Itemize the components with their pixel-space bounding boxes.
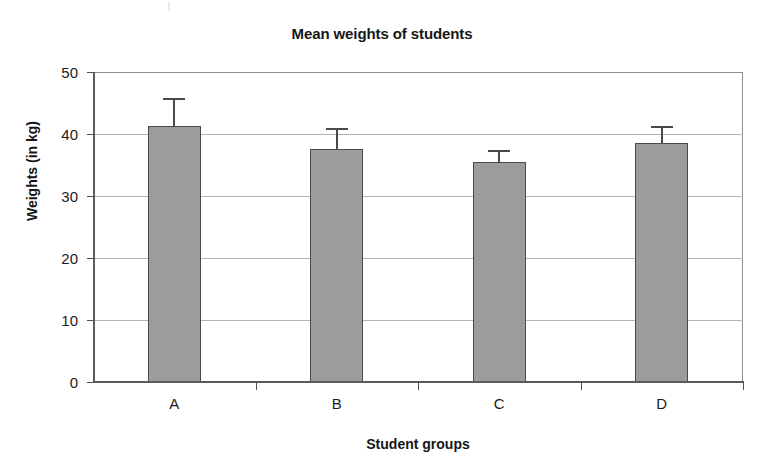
x-axis-tick: [418, 382, 419, 390]
x-axis-tick-label: A: [169, 395, 179, 412]
y-axis-tick-label: 10: [61, 312, 78, 329]
bar: [148, 126, 201, 382]
x-axis-tick-label: D: [656, 395, 667, 412]
x-axis-title: Student groups: [93, 436, 743, 452]
error-bar-stem: [661, 126, 663, 143]
x-axis-tick: [743, 382, 744, 390]
error-bar-stem: [336, 128, 338, 149]
y-axis-tick-label: 0: [70, 374, 78, 391]
x-axis-tick: [581, 382, 582, 390]
y-axis-line: [93, 72, 95, 383]
y-axis-tick: 30: [87, 196, 94, 197]
y-axis-tick-label: 30: [61, 188, 78, 205]
bar: [310, 149, 363, 382]
y-axis-tick: 40: [87, 134, 94, 135]
error-bar-cap: [488, 150, 510, 152]
bar: [473, 162, 526, 382]
plot-area: 01020304050 ABCD: [93, 72, 743, 382]
y-axis-title: Weights (in kg): [24, 76, 40, 266]
bar: [635, 143, 688, 382]
chart-title: Mean weights of students: [0, 25, 764, 42]
error-bar-stem: [173, 98, 175, 126]
y-axis-tick: 50: [87, 72, 94, 73]
x-axis-tick-label: C: [494, 395, 505, 412]
scan-artifact: [168, 2, 170, 11]
y-axis-tick: 20: [87, 258, 94, 259]
y-axis-tick-label: 40: [61, 126, 78, 143]
x-axis-tick: [256, 382, 257, 390]
y-axis-tick-label: 50: [61, 64, 78, 81]
y-axis-tick: 0: [87, 382, 94, 383]
error-bar-cap: [651, 126, 673, 128]
error-bar-cap: [326, 128, 348, 130]
y-axis-tick: 10: [87, 320, 94, 321]
y-axis-tick-label: 20: [61, 250, 78, 267]
error-bar-cap: [163, 98, 185, 100]
x-axis-tick-label: B: [332, 395, 342, 412]
